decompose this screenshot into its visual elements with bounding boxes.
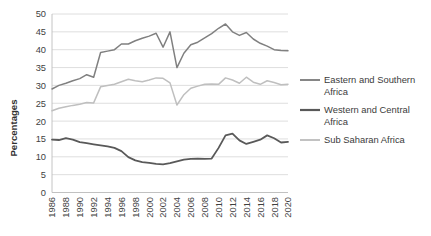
chart-container: 05101520253035404550 1986198819901992199… <box>0 0 431 236</box>
x-tick-label: 2012 <box>228 197 238 218</box>
y-tick-label: 10 <box>36 152 46 162</box>
y-tick-label: 30 <box>36 81 46 91</box>
x-tick-label: 1996 <box>117 197 127 218</box>
x-tick-label: 2004 <box>172 197 182 218</box>
legend-label-2: Sub Saharan Africa <box>324 134 406 145</box>
y-tick-label: 25 <box>36 99 46 109</box>
y-tick-label: 15 <box>36 134 46 144</box>
x-tick-label: 1998 <box>131 197 141 218</box>
x-tick-label: 2020 <box>283 197 293 218</box>
y-tick-label: 35 <box>36 63 46 73</box>
legend-label-1-line2: Africa <box>324 116 349 127</box>
x-tick-label: 1988 <box>61 197 71 218</box>
legend-label-1: Western and Central <box>324 104 410 115</box>
x-tick-label: 2008 <box>200 197 210 218</box>
x-tick-label: 2000 <box>145 197 155 218</box>
x-tick-label: 1994 <box>103 197 113 218</box>
legend-label-0: Eastern and Southern <box>324 74 415 85</box>
y-tick-label: 50 <box>36 9 46 19</box>
x-tick-label: 2018 <box>270 197 280 218</box>
x-tick-label: 1986 <box>47 197 57 218</box>
y-tick-label: 0 <box>41 188 46 198</box>
y-tick-label: 45 <box>36 27 46 37</box>
legend-label-0-line2: Africa <box>324 86 349 97</box>
line-chart: 05101520253035404550 1986198819901992199… <box>0 0 431 236</box>
x-tick-label: 2016 <box>256 197 266 218</box>
x-tick-label: 1992 <box>89 197 99 218</box>
x-tick-label: 2006 <box>186 197 196 218</box>
y-tick-label: 5 <box>41 170 46 180</box>
y-tick-label: 20 <box>36 117 46 127</box>
x-tick-label: 1990 <box>75 197 85 218</box>
x-tick-label: 2010 <box>214 197 224 218</box>
y-tick-label: 40 <box>36 45 46 55</box>
x-tick-label: 2002 <box>158 197 168 218</box>
y-axis-title: Percentages <box>8 99 19 156</box>
x-tick-label: 2014 <box>242 197 252 218</box>
